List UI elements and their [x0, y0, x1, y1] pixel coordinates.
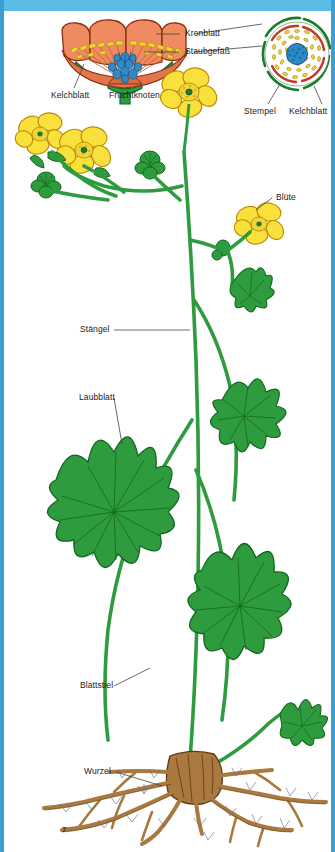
label-fruchtknoten: Fruchtknoten [109, 91, 160, 100]
label-staengel: Stängel [80, 325, 110, 334]
leaves [47, 268, 327, 746]
illustration-page: Kronblatt Staubgefäß Kelchblatt Fruchtkn… [0, 0, 335, 852]
page-number: 7 [62, 825, 66, 834]
label-wurzel: Wurzel [84, 767, 111, 776]
label-kronblatt: Kronblatt [185, 29, 220, 38]
label-kelchblatt-right: Kelchblatt [289, 107, 327, 116]
flower-buds-left [31, 172, 61, 198]
flower-cross-section [263, 18, 330, 90]
flower-upper-left-b [53, 125, 115, 176]
flower-buds-mid [135, 151, 165, 179]
label-bluete: Blüte [276, 193, 296, 202]
label-stempel: Stempel [244, 107, 276, 116]
label-blattstiel: Blattstiel [80, 681, 113, 690]
label-laubblatt: Laubblatt [79, 393, 115, 402]
plant-anatomy-figure [4, 0, 331, 852]
label-kelchblatt-left: Kelchblatt [51, 91, 89, 100]
flower-face-on-top [157, 66, 221, 152]
label-staubgefaess: Staubgefäß [185, 47, 230, 56]
